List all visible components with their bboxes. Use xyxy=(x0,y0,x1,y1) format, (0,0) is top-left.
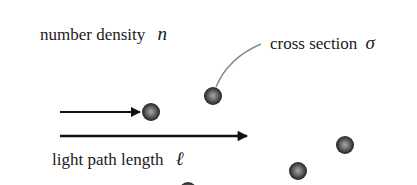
light-path-length-symbol: ℓ xyxy=(176,148,184,169)
beer-lambert-diagram: number density n cross section σ light p… xyxy=(0,0,417,185)
number-density-text: number density xyxy=(40,25,145,44)
light-path-length-text: light path length xyxy=(52,150,163,169)
light-path-length-label: light path length ℓ xyxy=(52,149,184,168)
cross-section-leader-line xyxy=(216,44,261,87)
particle xyxy=(179,182,197,185)
cross-section-label: cross section σ xyxy=(270,33,375,52)
particle xyxy=(336,136,354,154)
particle xyxy=(204,87,222,105)
particle xyxy=(142,103,160,121)
cross-section-text: cross section xyxy=(270,34,357,53)
number-density-label: number density n xyxy=(40,24,167,43)
particle xyxy=(289,162,307,180)
cross-section-symbol: σ xyxy=(366,32,375,53)
number-density-symbol: n xyxy=(158,23,168,44)
